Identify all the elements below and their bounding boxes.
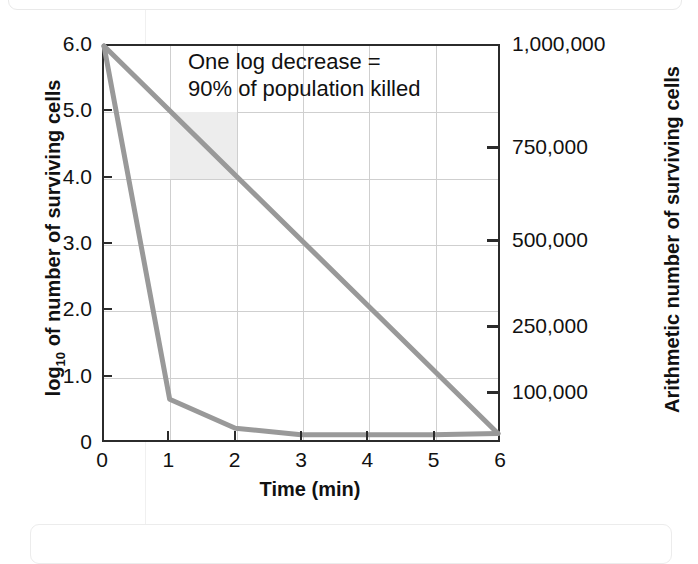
x-axis-tick-label: 0 xyxy=(82,449,122,470)
y-axis-left-title: log10 of number of surviving cells xyxy=(42,28,68,448)
series-layer xyxy=(104,46,498,440)
y-axis-right-tick xyxy=(487,239,499,242)
x-axis-tick xyxy=(433,431,435,441)
y-axis-left-tick xyxy=(103,109,112,111)
annotation-line-1: One log decrease = xyxy=(188,48,420,75)
x-axis-tick xyxy=(300,431,302,441)
y-axis-right-tick-label: 750,000 xyxy=(512,136,588,157)
y-axis-right-tick-label: 100,000 xyxy=(512,381,588,402)
x-axis-tick xyxy=(167,431,169,441)
y-axis-right-tick xyxy=(487,391,499,394)
x-axis-tick-label: 4 xyxy=(347,449,387,470)
annotation-line-2: 90% of population killed xyxy=(188,75,420,102)
plot-area xyxy=(102,44,500,442)
x-axis-title: Time (min) xyxy=(210,478,410,501)
y-axis-left-tick xyxy=(103,308,112,310)
x-axis-tick-label: 3 xyxy=(281,449,321,470)
y-axis-right-tick xyxy=(487,146,499,149)
y-axis-right-tick-label: 1,000,000 xyxy=(512,33,605,54)
y-axis-left-title-pre: log xyxy=(42,366,64,396)
x-axis-tick-label: 6 xyxy=(480,449,520,470)
y-axis-left-tick xyxy=(103,176,112,178)
y-axis-left-title-subscript: 10 xyxy=(53,352,68,366)
x-axis-tick xyxy=(366,431,368,441)
one-log-decrease-annotation: One log decrease = 90% of population kil… xyxy=(188,48,420,102)
y-axis-right-tick xyxy=(487,325,499,328)
y-axis-left-tick xyxy=(103,242,112,244)
x-axis-tick-label: 1 xyxy=(148,449,188,470)
plot-inner xyxy=(104,46,498,440)
y-axis-left-tick xyxy=(103,375,112,377)
y-axis-right-title: Arithmetic number of surviving cells xyxy=(661,20,684,460)
y-axis-left-title-post: of number of surviving cells xyxy=(42,80,64,352)
y-axis-right-tick-label: 250,000 xyxy=(512,315,588,336)
x-axis-tick xyxy=(234,431,236,441)
y-axis-right-tick-label: 500,000 xyxy=(512,229,588,250)
x-axis-tick-label: 5 xyxy=(414,449,454,470)
x-axis-tick-label: 2 xyxy=(215,449,255,470)
